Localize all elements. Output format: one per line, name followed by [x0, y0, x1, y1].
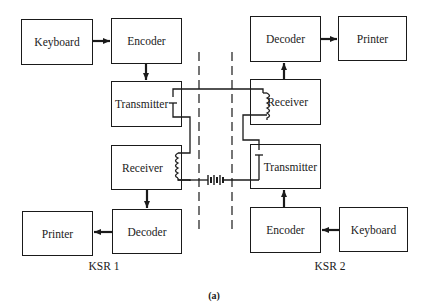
- ksr2-keyboard-box: Keyboard: [339, 207, 408, 252]
- ksr2-label: KSR 2: [308, 260, 352, 272]
- ksr1-label: KSR 1: [82, 260, 126, 272]
- ksr1-keyboard-box: Keyboard: [21, 19, 93, 65]
- ksr2-transmitter-label: Transmitter: [264, 161, 317, 173]
- ksr1-receiver-label: Receiver: [122, 162, 163, 174]
- ksr1-transmitter-label: Transmitter: [115, 98, 168, 110]
- ksr2-decoder-label: Decoder: [266, 33, 305, 45]
- battery-icon: [208, 175, 223, 185]
- ksr2-printer-box: Printer: [338, 16, 407, 61]
- ksr2-keyboard-label: Keyboard: [351, 224, 396, 236]
- ksr1-decoder-label: Decoder: [128, 226, 167, 238]
- ksr1-keyboard-label: Keyboard: [34, 36, 79, 48]
- ksr2-transmitter-box: Transmitter: [250, 144, 321, 189]
- ksr1-printer-box: Printer: [22, 211, 93, 256]
- ksr1-receiver-box: Receiver: [111, 145, 182, 190]
- ksr2-encoder-label: Encoder: [266, 224, 304, 236]
- ksr1-transmitter-box: Transmitter: [111, 81, 182, 127]
- ksr1-decoder-box: Decoder: [112, 209, 182, 254]
- ksr1-printer-label: Printer: [42, 228, 73, 240]
- ksr1-encoder-label: Encoder: [127, 35, 165, 47]
- ksr1-encoder-box: Encoder: [111, 18, 182, 64]
- ksr2-receiver-box: Receiver: [250, 79, 321, 125]
- ksr2-receiver-label: Receiver: [267, 96, 308, 108]
- ksr2-printer-label: Printer: [357, 33, 388, 45]
- figure-caption: (a): [200, 290, 228, 301]
- ksr2-decoder-box: Decoder: [250, 16, 321, 62]
- ksr2-encoder-box: Encoder: [250, 207, 321, 253]
